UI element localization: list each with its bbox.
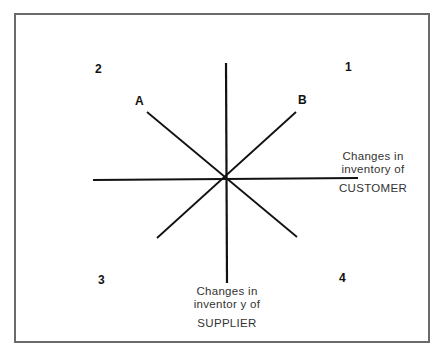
quadrant-2-label: 2 <box>95 62 102 76</box>
x-axis-label-line1: Changes in <box>333 150 413 163</box>
quadrant-1-label: 1 <box>345 60 352 74</box>
vertical-axis <box>226 63 227 283</box>
x-axis-label-line2: inventory of <box>333 163 413 176</box>
line-a-label: A <box>135 94 144 108</box>
y-axis-label: Changes in inventor y of SUPPLIER <box>186 285 268 330</box>
y-axis-label-line2: inventor y of <box>186 298 268 311</box>
y-axis-label-line1: Changes in <box>186 285 268 298</box>
x-axis-label-line3: CUSTOMER <box>333 182 413 195</box>
quadrant-4-label: 4 <box>339 271 346 285</box>
line-b-label: B <box>298 93 307 107</box>
x-axis-label: Changes in inventory of CUSTOMER <box>333 150 413 195</box>
quadrant-3-label: 3 <box>98 273 105 287</box>
y-axis-label-line3: SUPPLIER <box>186 317 268 330</box>
